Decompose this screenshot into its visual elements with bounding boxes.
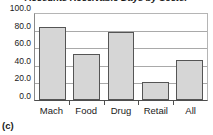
bar-slot-retail bbox=[138, 14, 172, 100]
bar-slot-mach bbox=[35, 14, 69, 100]
bar-all bbox=[176, 60, 203, 100]
y-axis-tick-label: 0.0 bbox=[0, 92, 31, 101]
x-axis-tick-label-all: All bbox=[173, 104, 208, 118]
bar-drug bbox=[108, 32, 135, 100]
y-axis-tick-label: 100.0 bbox=[0, 4, 31, 13]
plot-area bbox=[34, 13, 208, 101]
y-axis-tick-label: 60.0 bbox=[0, 39, 31, 48]
x-axis-tick-label-drug: Drug bbox=[104, 104, 139, 118]
x-axis-tick-label-food: Food bbox=[69, 104, 104, 118]
x-axis-tick-label-mach: Mach bbox=[34, 104, 69, 118]
bar-food bbox=[73, 54, 100, 100]
bar-mach bbox=[39, 27, 66, 100]
x-axis-tick-labels: Mach Food Drug Retail All bbox=[34, 104, 208, 118]
bar-slot-food bbox=[69, 14, 103, 100]
y-axis-tick-labels: 100.0 80.0 60.0 40.0 20.0 0.0 bbox=[0, 8, 31, 106]
y-axis-tick-label: 40.0 bbox=[0, 56, 31, 65]
chart-title: Accounts Receivable Days by Sector bbox=[0, 0, 213, 3]
bar-slot-all bbox=[173, 14, 207, 100]
bar-slot-drug bbox=[104, 14, 138, 100]
bar-group bbox=[35, 14, 207, 100]
bar-retail bbox=[142, 82, 169, 100]
bar-chart-figure: Accounts Receivable Days by Sector 100.0… bbox=[0, 0, 213, 135]
y-axis-tick-label: 80.0 bbox=[0, 21, 31, 30]
y-axis-tick-label: 20.0 bbox=[0, 74, 31, 83]
panel-caption: (c) bbox=[2, 120, 14, 131]
x-axis-tick-label-retail: Retail bbox=[138, 104, 173, 118]
